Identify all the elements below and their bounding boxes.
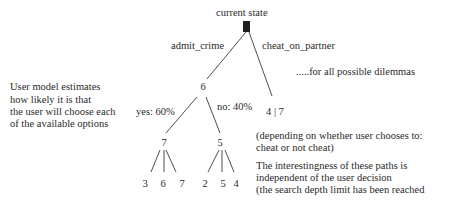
root-node xyxy=(243,21,250,32)
leaf-no-3: 4 xyxy=(230,178,242,189)
edge-no-child-3 xyxy=(225,150,234,172)
branch-label-admit-crime: admit_crime xyxy=(171,40,224,51)
annotation-depending-line-2: cheat or not cheat) xyxy=(256,142,334,153)
edge-no-child-1 xyxy=(208,150,219,172)
node-yes-value: 7 xyxy=(158,137,170,148)
node-admit-crime-value: 6 xyxy=(197,81,209,92)
root-label: current state xyxy=(216,7,268,18)
annotation-user-model-line-3: the user will choose each xyxy=(10,106,116,117)
node-cheat-on-partner-value: 4 | 7 xyxy=(266,106,284,117)
probability-no-label: no: 40% xyxy=(217,101,252,112)
leaf-no-1: 2 xyxy=(199,178,211,189)
annotation-interestingness-line-1: The interestingness of these paths is xyxy=(256,160,407,171)
leaf-yes-2: 6 xyxy=(157,178,169,189)
annotation-all-dilemmas: .....for all possible dilemmas xyxy=(296,66,415,77)
leaf-no-2: 5 xyxy=(217,178,229,189)
annotation-user-model-line-2: how likely it is that xyxy=(10,94,91,105)
leaf-yes-3: 7 xyxy=(176,178,188,189)
annotation-interestingness-line-3: (the search depth limit has been reached xyxy=(256,184,425,195)
edge-yes-child-1 xyxy=(151,150,160,172)
probability-yes-label: yes: 60% xyxy=(136,106,175,117)
annotation-user-model-line-4: of the available options xyxy=(10,118,108,129)
edge-yes-child-3 xyxy=(166,150,176,172)
annotation-interestingness-line-2: independent of the user decision xyxy=(256,172,392,183)
annotation-user-model-line-1: User model estimates xyxy=(10,81,100,92)
node-no-value: 5 xyxy=(214,137,226,148)
annotation-depending-line-1: (depending on whether user chooses to: xyxy=(256,130,423,141)
branch-label-cheat-on-partner: cheat_on_partner xyxy=(262,40,335,51)
leaf-yes-1: 3 xyxy=(139,178,151,189)
